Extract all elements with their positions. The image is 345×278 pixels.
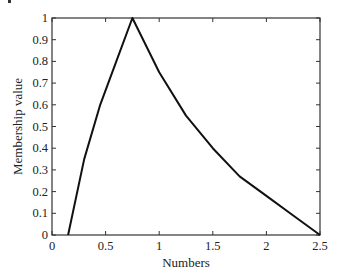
- x-tick-label: 0: [49, 239, 55, 253]
- y-tick-label: 0.1: [32, 206, 48, 220]
- x-tick-label: 1: [156, 239, 162, 253]
- y-tick-label: 0.9: [32, 33, 48, 47]
- axis-ticks: [52, 18, 320, 235]
- y-tick-label: 1: [42, 11, 48, 25]
- y-tick-labels: 00.10.20.30.40.50.60.70.80.91: [32, 11, 48, 242]
- x-tick-labels: 00.511.522.5: [49, 239, 328, 253]
- y-tick-label: 0: [42, 228, 48, 242]
- y-axis-label: Membership value: [10, 78, 25, 175]
- x-tick-label: 0.5: [98, 239, 114, 253]
- y-tick-label: 0.7: [32, 76, 48, 90]
- y-tick-label: 0.4: [32, 141, 48, 155]
- y-tick-label: 0.8: [32, 54, 48, 68]
- chart: 00.511.522.5 00.10.20.30.40.50.60.70.80.…: [0, 0, 345, 278]
- x-tick-label: 2.5: [312, 239, 328, 253]
- x-tick-label: 2: [263, 239, 269, 253]
- plot-frame: [52, 18, 320, 235]
- x-axis-label: Numbers: [162, 255, 210, 270]
- x-tick-label: 1.5: [205, 239, 221, 253]
- y-tick-label: 0.5: [32, 120, 48, 134]
- y-tick-label: 0.2: [32, 185, 48, 199]
- y-tick-label: 0.6: [32, 98, 48, 112]
- membership-line: [68, 18, 320, 235]
- y-tick-label: 0.3: [32, 163, 48, 177]
